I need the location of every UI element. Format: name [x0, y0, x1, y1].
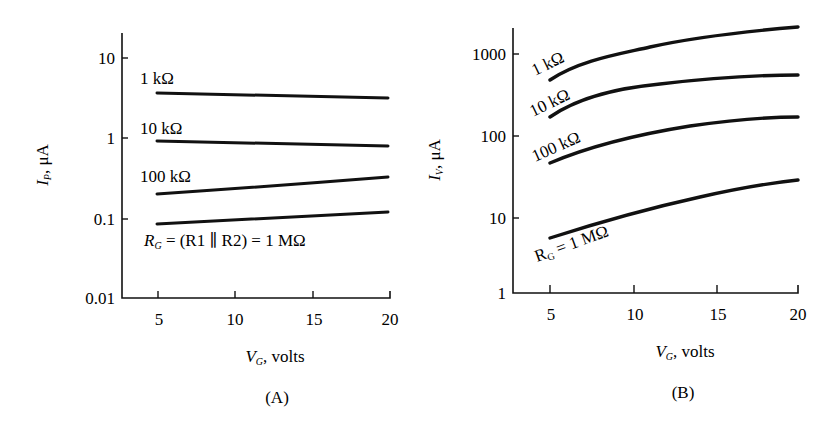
- panel-b-xtick-20: 20: [790, 305, 807, 324]
- panel-b-xtick-10: 10: [627, 305, 644, 324]
- panel-b-y-ticks: [513, 54, 519, 218]
- panel-b-xlabel: VG, volts: [655, 342, 714, 362]
- panel-a-curve-100k: [157, 177, 388, 194]
- panel-b-curve-1k: [550, 27, 798, 80]
- panel-b-ytick-1000: 1000: [472, 45, 506, 64]
- panel-b-ytick-10: 10: [489, 209, 506, 228]
- panel-a-ytick-0.1: 0.1: [94, 210, 115, 229]
- panel-a-curve-1M: [157, 212, 388, 224]
- panel-b-label-rg: RG = 1 MΩ: [532, 222, 611, 267]
- panel-a-ytick-10: 10: [98, 49, 115, 68]
- panel-b-ytick-100: 100: [481, 127, 507, 146]
- panel-a-ylabel: IP, μA: [33, 143, 53, 186]
- panel-a-xtick-10: 10: [227, 310, 244, 329]
- panel-a-x-ticks: [158, 291, 313, 298]
- panel-a-y-ticks: [122, 58, 128, 219]
- panel-a-curve-10k: [157, 141, 388, 146]
- panel-a: 10 1 0.1 0.01 5 10 15 20 1 kΩ 10 kΩ 100 …: [33, 33, 399, 407]
- panel-a-label-100k: 100 kΩ: [140, 167, 191, 186]
- panel-b-xtick-5: 5: [547, 305, 556, 324]
- panel-a-caption: (A): [265, 388, 289, 407]
- panel-a-label-rg: RG = (R1 ∥ R2) = 1 MΩ: [143, 231, 306, 251]
- panel-b-curve-100k: [550, 117, 798, 163]
- panel-a-xlabel: VG, volts: [245, 347, 304, 367]
- panel-b-ytick-1: 1: [498, 284, 507, 303]
- panel-b-xtick-15: 15: [710, 305, 727, 324]
- panel-b-ylabel: IV, μA: [425, 138, 445, 181]
- panel-a-xtick-15: 15: [306, 310, 323, 329]
- figure: 10 1 0.1 0.01 5 10 15 20 1 kΩ 10 kΩ 100 …: [0, 0, 838, 433]
- panel-a-ytick-0.01: 0.01: [85, 289, 115, 308]
- panel-b: 1000 100 10 1 5 10 15 20 1 kΩ 10 kΩ 100 …: [425, 27, 807, 402]
- panel-a-label-1k: 1 kΩ: [140, 69, 174, 88]
- panel-a-xtick-5: 5: [155, 310, 164, 329]
- panel-a-label-10k: 10 kΩ: [140, 119, 182, 138]
- panel-b-curve-10k: [550, 75, 798, 117]
- panel-b-x-ticks: [550, 285, 717, 293]
- panel-a-ytick-1: 1: [107, 129, 116, 148]
- panel-a-curve-1k: [157, 93, 388, 98]
- panel-a-xtick-20: 20: [382, 310, 399, 329]
- panel-b-caption: (B): [672, 383, 695, 402]
